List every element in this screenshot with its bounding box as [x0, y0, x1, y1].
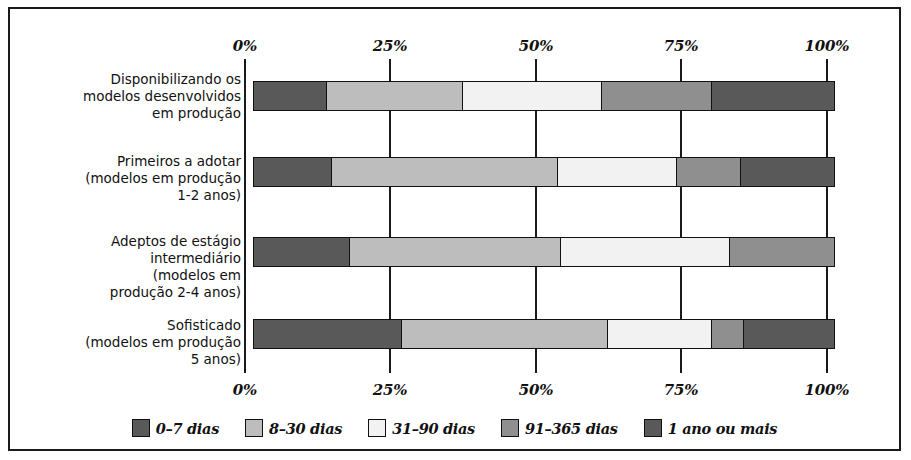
legend-swatch-icon — [245, 419, 263, 437]
legend-item-0[interactable]: 0–7 dias — [132, 419, 219, 437]
legend-swatch-icon — [368, 419, 386, 437]
bar-segment — [254, 238, 350, 266]
category-label-0: Disponibilizando os modelos desenvolvido… — [26, 71, 241, 122]
legend-swatch-icon — [644, 419, 662, 437]
axis-bottom-tick-label-3: 75% — [664, 381, 699, 399]
chart-frame: 0% 25% 50% 75% 100% 0% 25% 50% 75% 100% … — [8, 7, 901, 451]
legend-swatch-icon — [501, 419, 519, 437]
stacked-bar[interactable] — [253, 157, 835, 187]
axis-top-tick-0 — [244, 59, 246, 75]
axis-bottom-tick-label-1: 25% — [373, 381, 408, 399]
category-label-1: Primeiros a adotar (modelos em produção … — [26, 153, 241, 204]
chart-figure: 0% 25% 50% 75% 100% 0% 25% 50% 75% 100% … — [0, 0, 911, 460]
axis-bottom-tick-2 — [535, 357, 537, 373]
bar-segment — [602, 82, 712, 110]
legend-item-2[interactable]: 31–90 dias — [368, 419, 475, 437]
bar-segment — [712, 320, 744, 348]
chart-legend: 0–7 dias 8–30 dias 31–90 dias 91–365 dia… — [10, 419, 899, 437]
axis-top-tick-2 — [535, 59, 537, 75]
legend-label: 0–7 dias — [156, 420, 219, 437]
bar-row-0 — [253, 81, 835, 111]
legend-label: 91–365 dias — [525, 420, 618, 437]
bar-segment — [327, 82, 463, 110]
bar-segment — [254, 82, 327, 110]
bar-segment — [712, 82, 834, 110]
axis-top-tick-label-1: 25% — [373, 37, 408, 55]
category-label-3: Sofisticado (modelos em produção 5 anos) — [26, 317, 241, 368]
axis-bottom-tick-label-0: 0% — [233, 381, 257, 399]
legend-item-4[interactable]: 1 ano ou mais — [644, 419, 778, 437]
bar-segment — [744, 320, 834, 348]
axis-top-tick-3 — [680, 59, 682, 75]
stacked-bar[interactable] — [253, 319, 835, 349]
axis-top-tick-label-2: 50% — [519, 37, 554, 55]
bar-segment — [741, 158, 834, 186]
axis-bottom-tick-1 — [389, 357, 391, 373]
bar-segment — [332, 158, 558, 186]
legend-label: 1 ano ou mais — [668, 420, 778, 437]
gridline-0 — [244, 75, 246, 357]
axis-top-tick-label-4: 100% — [805, 37, 850, 55]
legend-item-3[interactable]: 91–365 dias — [501, 419, 618, 437]
bar-row-1 — [253, 157, 835, 187]
legend-label: 31–90 dias — [392, 420, 475, 437]
bar-row-3 — [253, 319, 835, 349]
legend-item-1[interactable]: 8–30 dias — [245, 419, 342, 437]
bar-segment — [558, 158, 677, 186]
axis-bottom-tick-0 — [244, 357, 246, 373]
axis-top-tick-1 — [389, 59, 391, 75]
bar-segment — [561, 238, 729, 266]
legend-label: 8–30 dias — [269, 420, 342, 437]
bar-segment — [730, 238, 834, 266]
axis-bottom-tick-label-2: 50% — [519, 381, 554, 399]
bar-segment — [402, 320, 608, 348]
stacked-bar[interactable] — [253, 81, 835, 111]
bar-segment — [608, 320, 712, 348]
bar-segment — [677, 158, 741, 186]
bar-segment — [463, 82, 602, 110]
bar-segment — [254, 320, 402, 348]
axis-bottom-tick-label-4: 100% — [805, 381, 850, 399]
axis-top-tick-4 — [826, 59, 828, 75]
axis-top-tick-label-0: 0% — [233, 37, 257, 55]
axis-bottom-tick-4 — [826, 357, 828, 373]
bar-segment — [254, 158, 332, 186]
legend-swatch-icon — [132, 419, 150, 437]
axis-top-tick-label-3: 75% — [664, 37, 699, 55]
category-label-2: Adeptos de estágio intermediário (modelo… — [26, 233, 241, 301]
plot-area — [253, 75, 835, 357]
axis-bottom-tick-3 — [680, 357, 682, 373]
stacked-bar[interactable] — [253, 237, 835, 267]
bar-row-2 — [253, 237, 835, 267]
bar-segment — [350, 238, 562, 266]
